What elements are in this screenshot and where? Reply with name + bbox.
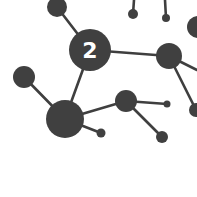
center-node-label: 2 [82, 38, 97, 63]
node-left [13, 66, 35, 88]
node-top-small-2 [162, 14, 170, 22]
nodes: 2 [13, 0, 197, 143]
node-right-edge-partial [189, 103, 197, 117]
node-mid-small-right [164, 101, 171, 108]
node-mid [115, 90, 137, 112]
network-diagram: 2 [0, 0, 197, 197]
node-bottom-big [46, 100, 84, 138]
node-right-top-partial [187, 16, 197, 38]
node-mid-below [156, 131, 168, 143]
node-top-small-1 [128, 9, 138, 19]
node-right [156, 43, 182, 69]
node-bottom-small [97, 129, 106, 138]
